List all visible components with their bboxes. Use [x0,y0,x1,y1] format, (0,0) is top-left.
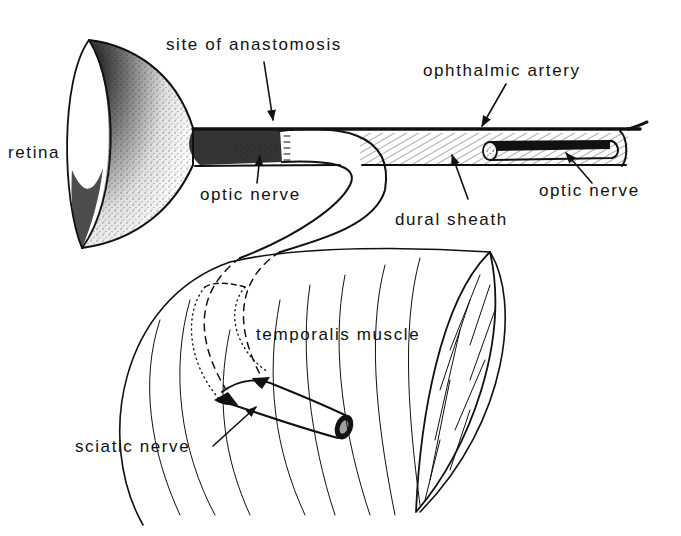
sciatic-nerve-graft [191,129,386,441]
graft-inner-curve [240,162,352,258]
label-temporalis-muscle: temporalis muscle [256,325,420,344]
label-optic-nerve-left: optic nerve [200,185,301,204]
muscle-fiber-lines [150,258,420,515]
label-ophthalmic-artery: ophthalmic artery [423,61,581,80]
suture-marks [284,136,290,160]
tunnel-entry-flaps [205,283,245,287]
label-sciatic-nerve: sciatic nerve [75,437,190,456]
muscle-incision-flap-left [214,392,238,405]
eye-cup [67,40,193,248]
dural-sheath-tube [189,122,647,166]
label-retina: retina [8,143,60,162]
arrow-sciatic-nerve [213,407,256,446]
label-dural-sheath: dural sheath [395,210,508,229]
pointer-arrows [213,62,592,446]
muscle-cut-face-fibers [425,275,495,500]
anatomical-diagram: retina site of anastomosis ophthalmic ar… [0,0,681,536]
label-site-of-anastomosis: site of anastomosis [166,35,342,54]
graft-tunnel-dashed [204,252,280,388]
muscle-cut-face [416,252,495,512]
temporalis-muscle [120,248,505,525]
arrow-anastomosis [264,62,273,120]
muscle-incision-flap-right [252,377,270,389]
graft-exposed-top [222,380,345,415]
label-optic-nerve-right: optic nerve [539,181,640,200]
arrow-ophthalmic-artery [482,84,506,126]
